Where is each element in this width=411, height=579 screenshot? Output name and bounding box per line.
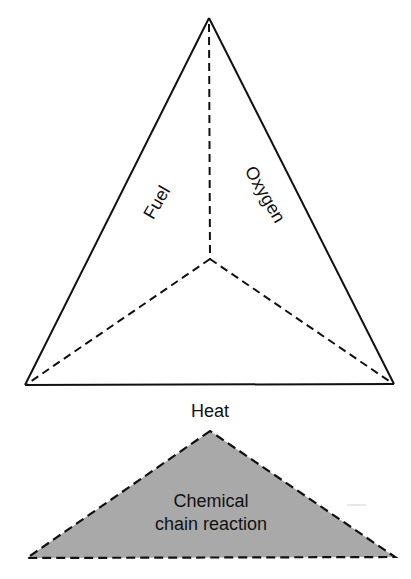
label-chain-reaction: chain reaction [155, 514, 267, 534]
edge-left [25, 18, 209, 385]
hidden-edge-left [27, 259, 210, 384]
hidden-edge-vertical [209, 24, 210, 259]
edge-right [209, 18, 394, 384]
tetrahedron-hidden-edges [27, 24, 392, 384]
label-heat: Heat [191, 401, 229, 421]
edge-base [25, 384, 394, 385]
label-chemical: Chemical [173, 491, 248, 511]
label-fuel: Fuel [140, 182, 175, 222]
label-oxygen: Oxygen [241, 163, 289, 227]
hidden-edge-right [210, 259, 392, 383]
tetrahedron-outline [25, 18, 394, 385]
fire-tetrahedron-diagram: Fuel Oxygen Heat Chemical chain reaction [0, 0, 411, 579]
